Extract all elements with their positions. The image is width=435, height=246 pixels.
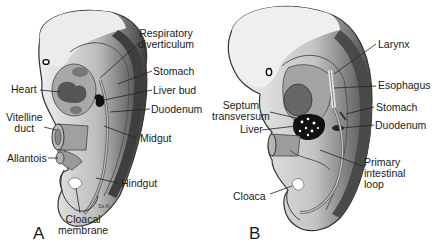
label-cloacal-line2: membrane — [58, 225, 108, 236]
artist-signature: Sa.R. — [98, 203, 111, 209]
label-allantois: Allantois — [7, 153, 47, 164]
label-primary-line3: loop — [364, 179, 405, 190]
label-larynx: Larynx — [378, 39, 410, 50]
label-hindgut: Hindgut — [121, 178, 157, 189]
label-duodenum-b: Duodenum — [375, 120, 426, 131]
label-stomach-b: Stomach — [376, 102, 417, 113]
label-liver-bud: Liver bud — [153, 85, 196, 96]
label-cloaca: Cloaca — [233, 191, 266, 202]
label-liver: Liver — [240, 124, 263, 135]
label-septum-line2: transversum — [212, 111, 270, 122]
label-cloacal-membrane: Cloacal membrane — [58, 214, 108, 236]
label-stomach-a: Stomach — [153, 66, 194, 77]
label-vitelline-line2: duct — [6, 123, 43, 134]
label-duodenum-a: Duodenum — [151, 104, 202, 115]
label-primary-intestinal-loop: Primary intestinal loop — [364, 157, 405, 190]
label-heart: Heart — [11, 84, 37, 95]
panel-label-b: B — [249, 224, 260, 244]
label-vitelline-duct: Vitelline duct — [6, 112, 43, 134]
embryo-a — [39, 10, 147, 226]
label-respiratory-diverticulum: Respiratory diverticulum — [138, 28, 194, 50]
label-respiratory-line2: diverticulum — [138, 39, 194, 50]
label-esophagus: Esophagus — [378, 80, 431, 91]
embryo-diagram-artwork — [0, 0, 435, 246]
label-midgut: Midgut — [140, 133, 172, 144]
label-septum-transversum: Septum transversum — [212, 100, 270, 122]
panel-label-a: A — [33, 224, 44, 244]
